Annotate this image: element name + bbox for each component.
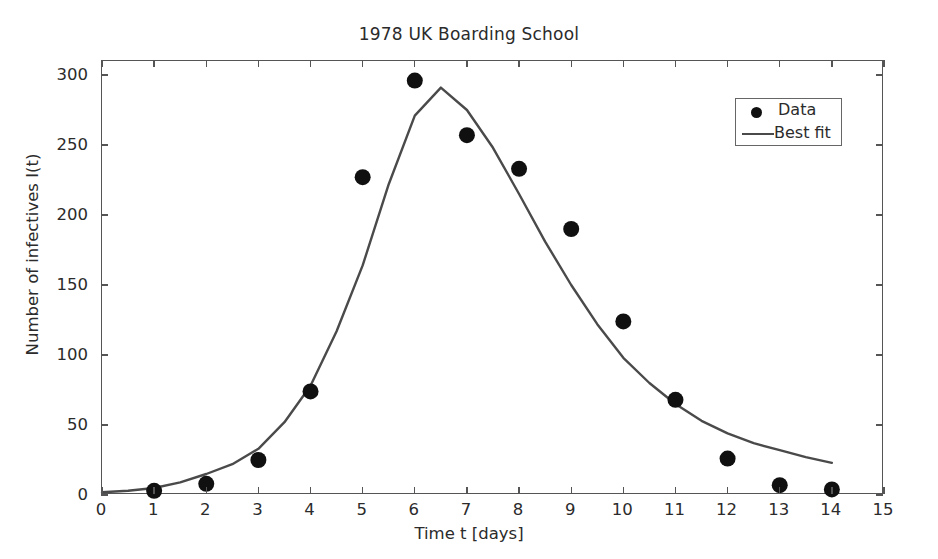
x-axis-tick [675, 487, 676, 494]
x-axis-tick-label: 2 [200, 500, 211, 519]
data-point [511, 161, 527, 177]
x-axis-tick [883, 487, 884, 494]
x-axis-tick-top [362, 60, 363, 67]
y-axis-tick [101, 144, 108, 145]
x-axis-tick-label: 12 [716, 500, 737, 519]
x-axis-tick-top [779, 60, 780, 67]
y-axis-tick-label: 250 [0, 135, 88, 154]
x-axis-tick [206, 487, 207, 494]
y-axis-label: Number of infectives I(t) [23, 65, 42, 445]
x-axis-tick [571, 487, 572, 494]
x-axis-tick [466, 487, 467, 494]
y-axis-tick-label: 50 [0, 415, 88, 434]
y-axis-tick-right [876, 144, 883, 145]
x-axis-tick [414, 487, 415, 494]
best-fit-line-marker-icon [742, 133, 774, 135]
x-axis-tick-label: 1 [148, 500, 159, 519]
chart-title: 1978 UK Boarding School [0, 24, 938, 44]
x-axis-tick-top [153, 60, 154, 67]
x-axis-tick-label: 7 [461, 500, 472, 519]
x-axis-tick-label: 3 [252, 500, 263, 519]
x-axis-tick-label: 6 [409, 500, 420, 519]
legend-label-data: Data [778, 100, 816, 119]
x-axis-tick [779, 487, 780, 494]
y-axis-tick [101, 424, 108, 425]
y-axis-tick-right [876, 424, 883, 425]
x-axis-tick-top [206, 60, 207, 67]
x-axis-tick-label: 11 [664, 500, 685, 519]
x-axis-tick-label: 8 [513, 500, 524, 519]
x-axis-tick-top [466, 60, 467, 67]
x-axis-tick-top [310, 60, 311, 67]
data-point-marker-icon [751, 107, 762, 118]
y-axis-tick-right [876, 74, 883, 75]
legend-label-best-fit: Best fit [774, 123, 831, 142]
data-point [303, 383, 319, 399]
x-axis-tick [153, 487, 154, 494]
x-axis-tick-label: 9 [565, 500, 576, 519]
y-axis-tick-right [876, 214, 883, 215]
y-axis-tick-label: 150 [0, 275, 88, 294]
y-axis-tick [101, 284, 108, 285]
best-fit-line [102, 88, 832, 493]
x-axis-tick-label: 15 [873, 500, 894, 519]
x-axis-tick-top [831, 60, 832, 67]
y-axis-tick [101, 74, 108, 75]
x-axis-tick [258, 487, 259, 494]
data-point [667, 392, 683, 408]
data-point [407, 73, 423, 89]
chart-legend: Data Best fit [735, 98, 842, 146]
x-axis-tick-top [258, 60, 259, 67]
x-axis-tick-label: 4 [304, 500, 315, 519]
x-axis-tick [727, 487, 728, 494]
x-axis-tick-label: 14 [820, 500, 841, 519]
x-axis-tick-top [414, 60, 415, 67]
x-axis-tick-top [675, 60, 676, 67]
y-axis-tick-label: 200 [0, 205, 88, 224]
x-axis-tick [310, 487, 311, 494]
y-axis-tick-right [876, 284, 883, 285]
x-axis-tick [101, 487, 102, 494]
y-axis-tick [101, 354, 108, 355]
x-axis-tick-top [727, 60, 728, 67]
y-axis-tick [101, 494, 108, 495]
y-axis-tick [101, 214, 108, 215]
x-axis-tick-label: 5 [356, 500, 367, 519]
data-point [720, 451, 736, 467]
y-axis-tick-label: 100 [0, 345, 88, 364]
x-axis-tick [623, 487, 624, 494]
y-axis-tick-right [876, 494, 883, 495]
x-axis-label: Time t [days] [0, 524, 938, 543]
y-axis-tick-label: 0 [0, 485, 88, 504]
x-axis-tick [362, 487, 363, 494]
x-axis-tick-label: 10 [612, 500, 633, 519]
chart-figure: 1978 UK Boarding School Number of infect… [0, 0, 938, 559]
y-axis-tick-right [876, 354, 883, 355]
x-axis-tick-top [101, 60, 102, 67]
x-axis-tick [831, 487, 832, 494]
legend-entry-data: Data [736, 99, 843, 123]
data-point [459, 127, 475, 143]
y-axis-tick-label: 300 [0, 65, 88, 84]
data-point [563, 221, 579, 237]
data-point [355, 169, 371, 185]
x-axis-tick-top [571, 60, 572, 67]
x-axis-tick-top [883, 60, 884, 67]
x-axis-tick-label: 13 [768, 500, 789, 519]
x-axis-tick [518, 487, 519, 494]
data-point [250, 452, 266, 468]
legend-entry-best-fit: Best fit [736, 122, 843, 146]
x-axis-tick-top [623, 60, 624, 67]
data-point [615, 313, 631, 329]
x-axis-tick-top [518, 60, 519, 67]
x-axis-tick-label: 0 [96, 500, 107, 519]
